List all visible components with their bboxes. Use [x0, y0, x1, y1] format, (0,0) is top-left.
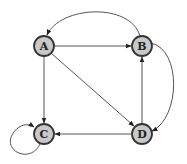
node-d-label: D — [137, 128, 147, 141]
node-b: B — [132, 36, 152, 56]
edge-b-to-d — [151, 43, 174, 131]
node-c-label: C — [40, 128, 49, 141]
graph-diagram: A B C D — [0, 0, 187, 164]
edge-b-to-a — [47, 12, 140, 36]
node-a: A — [34, 36, 54, 56]
edge-a-to-d — [51, 53, 134, 126]
node-a-label: A — [39, 40, 49, 53]
node-b-label: B — [137, 40, 146, 53]
node-d: D — [132, 124, 152, 144]
node-c: C — [34, 124, 54, 144]
